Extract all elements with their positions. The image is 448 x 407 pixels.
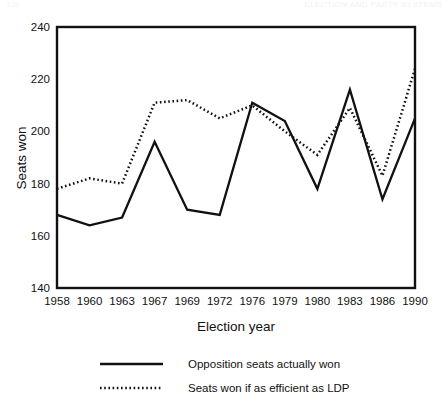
- y-tick-140: 140: [31, 282, 50, 294]
- running-head-faint: ELECTION AND PARTY SYSTEMS: [304, 0, 442, 9]
- x-axis-tick-labels: 1958196019631967196919721976197919801983…: [44, 295, 428, 307]
- series-line-actual: [57, 90, 415, 226]
- y-axis-title: Seats won: [14, 126, 29, 189]
- y-tick-220: 220: [31, 73, 50, 85]
- x-tick-1990: 1990: [402, 295, 428, 307]
- x-tick-1979: 1979: [272, 295, 298, 307]
- y-axis-tick-labels: 140160180200220240: [31, 21, 50, 294]
- x-tick-1986: 1986: [370, 295, 396, 307]
- legend-label-efficient: Seats won if as efficient as LDP: [188, 382, 350, 394]
- y-tick-160: 160: [31, 230, 50, 242]
- legend: Opposition seats actually won Seats won …: [100, 358, 350, 394]
- x-tick-1967: 1967: [142, 295, 168, 307]
- x-tick-1969: 1969: [174, 295, 200, 307]
- figure-container: 136 ELECTION AND PARTY SYSTEMS Seats won…: [0, 0, 448, 407]
- x-tick-1958: 1958: [44, 295, 70, 307]
- y-tick-200: 200: [31, 125, 50, 137]
- x-tick-1972: 1972: [207, 295, 233, 307]
- x-tick-1976: 1976: [239, 295, 265, 307]
- x-axis-title: Election year: [197, 319, 276, 334]
- page-number-faint: 136: [6, 0, 19, 9]
- legend-label-actual: Opposition seats actually won: [188, 358, 340, 370]
- line-chart: Seats won 140160180200220240 19581960196…: [0, 0, 448, 407]
- y-tick-180: 180: [31, 178, 50, 190]
- y-tick-240: 240: [31, 21, 50, 33]
- x-tick-1960: 1960: [77, 295, 103, 307]
- x-tick-1963: 1963: [109, 295, 135, 307]
- x-tick-1983: 1983: [337, 295, 363, 307]
- x-tick-1980: 1980: [305, 295, 331, 307]
